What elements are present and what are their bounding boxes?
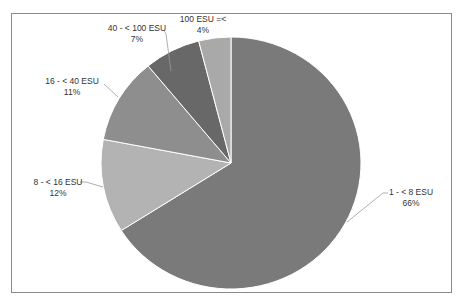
slice-label-s0: 1 - < 8 ESU 66% (389, 187, 433, 209)
slice-label-s2: 16 - < 40 ESU 11% (45, 76, 99, 98)
slice-label-name: 40 - < 100 ESU (108, 23, 166, 34)
slice-label-pct: 12% (34, 188, 83, 199)
slice-label-name: 100 ESU =< (180, 14, 226, 25)
slice-label-pct: 11% (45, 87, 99, 98)
slice-label-name: 8 - < 16 ESU (34, 177, 83, 188)
slice-label-s4: 100 ESU =< 4% (180, 14, 226, 36)
slice-label-name: 1 - < 8 ESU (389, 187, 433, 198)
slice-label-pct: 7% (108, 34, 166, 45)
slice-label-pct: 66% (389, 198, 433, 209)
leader-line-s1 (80, 182, 103, 187)
pie-slices (101, 37, 361, 289)
pie-chart (0, 0, 461, 302)
slice-label-s3: 40 - < 100 ESU 7% (108, 23, 166, 45)
leader-line-s2 (104, 84, 118, 97)
slice-label-s1: 8 - < 16 ESU 12% (34, 177, 83, 199)
slice-label-name: 16 - < 40 ESU (45, 76, 99, 87)
slice-label-pct: 4% (180, 25, 226, 36)
